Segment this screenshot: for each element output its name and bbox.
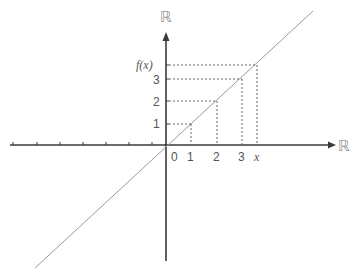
identity-function-diagram: ℝ ℝ 0 1 2 3 x 1 2 3 f(x)	[0, 0, 357, 276]
x-tick-1: 1	[187, 150, 194, 164]
x-tick-x: x	[253, 150, 260, 164]
x-tick-3: 3	[238, 150, 245, 164]
y-tick-fx: f(x)	[136, 58, 153, 72]
y-tick-2: 2	[153, 95, 160, 109]
identity-line	[35, 11, 313, 268]
x-axis	[10, 142, 336, 149]
y-axis-arrow-icon	[163, 32, 170, 41]
x-axis-label: ℝ	[338, 137, 350, 155]
y-tick-3: 3	[153, 73, 160, 87]
y-tick-1: 1	[153, 117, 160, 131]
x-axis-arrow-icon	[328, 142, 336, 149]
dashed-guides	[169, 65, 257, 145]
y-axis-label: ℝ	[160, 8, 172, 26]
origin-label: 0	[171, 150, 178, 164]
x-tick-2: 2	[213, 150, 220, 164]
